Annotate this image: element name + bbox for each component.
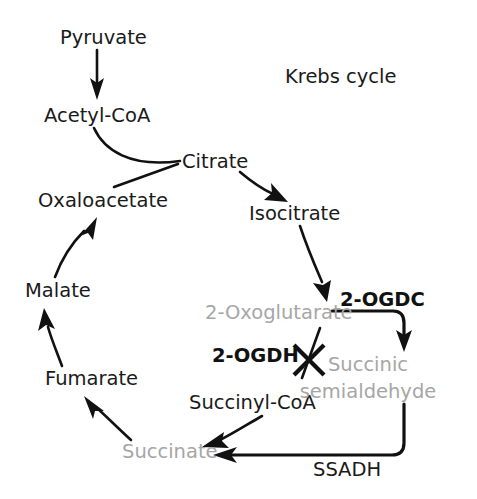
edge-malate-to-oxaloacetate <box>55 217 97 277</box>
enzyme-label-2-ogdc: 2-OGDC <box>340 288 425 311</box>
edge-pyruvate-to-acetyl-coa <box>90 50 104 100</box>
node-isocitrate: Isocitrate <box>249 202 340 225</box>
edge-acetyl-coa-to-citrate <box>94 128 180 163</box>
diagram-title: Krebs cycle <box>285 65 397 88</box>
node-oxaloacetate: Oxaloacetate <box>38 189 168 212</box>
krebs-cycle-canvas: Krebs cycle Pyruvate Acetyl-CoA Citrate … <box>0 0 477 499</box>
edge-citrate-to-isocitrate <box>240 172 288 202</box>
node-2-oxoglutarate: 2-Oxoglutarate <box>205 301 353 324</box>
krebs-cycle-diagram: Krebs cycle Pyruvate Acetyl-CoA Citrate … <box>0 0 477 499</box>
node-acetyl-coa: Acetyl-CoA <box>44 104 151 127</box>
edge-oxaloacetate-to-citrate <box>114 164 178 187</box>
node-succinyl-coa: Succinyl-CoA <box>189 391 316 414</box>
node-succinic-semialdehyde-line2: semialdehyde <box>300 380 437 403</box>
edge-isocitrate-to-oxoglutarate <box>300 226 331 302</box>
enzyme-label-2-ogdh: 2-OGDH <box>212 344 299 367</box>
edge-fumarate-to-malate <box>38 308 62 366</box>
node-fumarate: Fumarate <box>45 367 138 390</box>
node-succinic-semialdehyde-line1: Succinic <box>328 353 408 376</box>
node-citrate: Citrate <box>182 150 248 173</box>
enzyme-label-ssadh: SSADH <box>313 458 381 481</box>
node-succinate: Succinate <box>122 440 218 463</box>
edge-succinate-to-fumarate <box>84 396 131 440</box>
node-pyruvate: Pyruvate <box>60 26 147 49</box>
node-malate: Malate <box>25 279 91 302</box>
